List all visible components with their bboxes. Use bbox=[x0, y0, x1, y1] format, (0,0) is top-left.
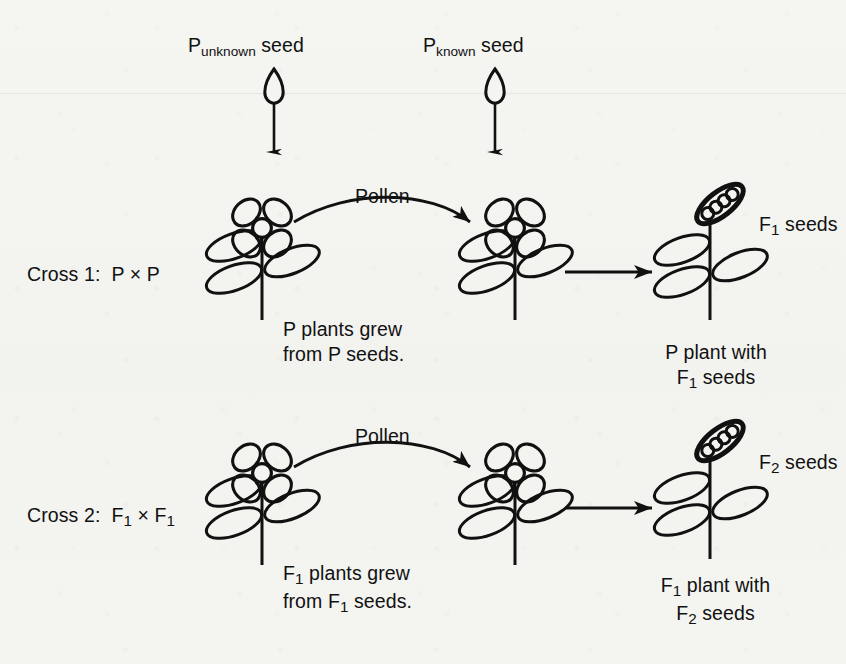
seed-label-suffix: seed bbox=[476, 34, 524, 56]
caption-suffix: seeds. bbox=[349, 590, 413, 612]
seed-pod-icon bbox=[691, 414, 750, 467]
caption-base: F bbox=[661, 574, 673, 596]
caption-suffix: plants grew bbox=[304, 562, 410, 584]
seed-label-subscript: known bbox=[436, 44, 475, 59]
cross-2-label: Cross 2: F1 × F1 bbox=[27, 503, 175, 531]
seed-label-suffix: seed bbox=[256, 34, 304, 56]
caption-line-1: P plants grew bbox=[283, 317, 404, 342]
seed-label-base: F bbox=[759, 451, 771, 473]
cross1-right-plant bbox=[456, 194, 577, 320]
genetics-cross-figure: Punknown seed Pknown seed Cross 1: P × P… bbox=[0, 0, 846, 664]
cross-1-label: Cross 1: P × P bbox=[27, 262, 160, 287]
caption-line-2: from P seeds. bbox=[283, 342, 404, 367]
leaf bbox=[651, 466, 714, 509]
caption-base: F bbox=[676, 602, 688, 624]
caption-line-2: F1 seeds bbox=[636, 365, 796, 393]
caption-suffix: seeds bbox=[697, 366, 755, 388]
cross2-left-plant bbox=[203, 439, 324, 565]
cross-2-seed-label: F2 seeds bbox=[759, 450, 838, 478]
caption-subscript: 1 bbox=[295, 570, 304, 587]
cross-label-sub-1: 1 bbox=[123, 512, 132, 529]
cross-1-seed-label: F1 seeds bbox=[759, 212, 838, 240]
seed-icon bbox=[486, 69, 504, 103]
seed-drop-p-known bbox=[486, 69, 504, 152]
cross-label-base-1: F bbox=[111, 504, 123, 526]
seed-label-subscript: 2 bbox=[771, 459, 780, 476]
cross-label-expression: P × P bbox=[111, 263, 159, 285]
caption-line-2: from F1 seeds. bbox=[283, 589, 412, 617]
seed-label-subscript: unknown bbox=[201, 44, 256, 59]
caption-line-1: P plant with bbox=[636, 340, 796, 365]
seed-label-suffix: seeds bbox=[780, 213, 838, 235]
seed-label-base: F bbox=[759, 213, 771, 235]
caption-base: F bbox=[677, 366, 689, 388]
caption-base: F bbox=[283, 562, 295, 584]
diagram-vector-layer bbox=[0, 0, 846, 664]
seed-drop-p-unknown bbox=[265, 69, 283, 152]
cross2-right-plant bbox=[456, 439, 577, 565]
caption-subscript: 1 bbox=[340, 598, 349, 615]
seed-label-base: P bbox=[423, 34, 436, 56]
caption-suffix: plant with bbox=[681, 574, 770, 596]
cross-label-prefix: Cross 2: bbox=[27, 504, 100, 526]
cross-2-pollen-label: Pollen bbox=[355, 424, 410, 449]
leaf bbox=[708, 481, 771, 526]
cross2-product-plant bbox=[651, 414, 772, 559]
seed-source-label-p-known: Pknown seed bbox=[423, 33, 524, 61]
leaf bbox=[708, 243, 771, 288]
cross-2-grew-caption: F1 plants grew from F1 seeds. bbox=[283, 561, 412, 616]
caption-line-1: F1 plants grew bbox=[283, 561, 412, 589]
seed-label-suffix: seeds bbox=[780, 451, 838, 473]
cross-label-operator: × F bbox=[132, 504, 167, 526]
leaf bbox=[651, 228, 714, 271]
cross1-product-plant bbox=[651, 177, 772, 320]
caption-line-1: F1 plant with bbox=[628, 573, 803, 601]
leaf bbox=[651, 260, 714, 303]
cross-label-sub-2: 1 bbox=[167, 512, 176, 529]
caption-line-2: F2 seeds bbox=[628, 601, 803, 629]
caption-subscript: 1 bbox=[689, 374, 698, 391]
seed-label-base: P bbox=[188, 34, 201, 56]
caption-subscript: 2 bbox=[688, 610, 697, 627]
seed-pod-icon bbox=[691, 177, 750, 230]
cross-1-product-caption: P plant with F1 seeds bbox=[636, 340, 796, 393]
cross-1-pollen-label: Pollen bbox=[355, 184, 410, 209]
seed-label-subscript: 1 bbox=[771, 221, 780, 238]
caption-base: from F bbox=[283, 590, 340, 612]
cross-2-product-caption: F1 plant with F2 seeds bbox=[628, 573, 803, 628]
cross-1-grew-caption: P plants grew from P seeds. bbox=[283, 317, 404, 367]
leaf bbox=[651, 498, 714, 541]
cross-label-prefix: Cross 1: bbox=[27, 263, 100, 285]
caption-suffix: seeds bbox=[697, 602, 755, 624]
seed-source-label-p-unknown: Punknown seed bbox=[188, 33, 304, 61]
cross1-left-plant bbox=[203, 194, 324, 320]
seed-icon bbox=[265, 69, 283, 103]
